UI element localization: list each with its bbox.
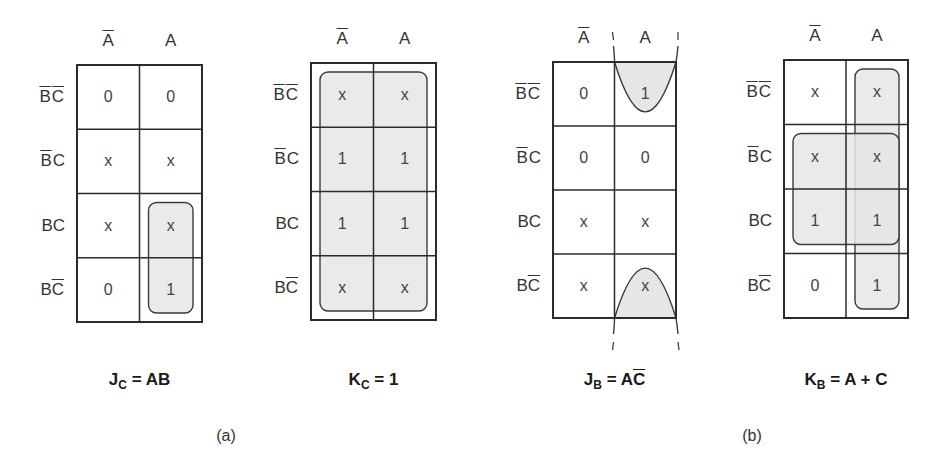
row-header-literal: B (40, 280, 51, 299)
equation-lhs: K (805, 370, 817, 389)
kmap-cell-value: x (338, 279, 346, 297)
kmap-cell-value: x (104, 217, 112, 235)
equation-lhs: K (349, 370, 361, 389)
row-header-literal: B (516, 276, 527, 295)
kmap-cell-value: x (167, 152, 175, 170)
row-header: BC (39, 87, 65, 107)
kmap-jc-equation: JC = AB (109, 370, 170, 392)
kmap-cell-value: x (580, 277, 588, 295)
kmap-cell-value: 0 (811, 277, 820, 295)
karnaugh-map-figure: AABCBCBCBC00xxxx01JC = ABAABCBCBCBCxx111… (0, 0, 933, 464)
row-header-literal: B (275, 214, 286, 233)
row-header: BC (273, 85, 299, 105)
kmap-cell-value: x (641, 213, 649, 231)
kmap-jb-equation: JB = AC (584, 370, 645, 392)
row-header-literal: C (528, 276, 540, 295)
row-header: BC (274, 149, 299, 169)
kmap-cell-value: 1 (338, 150, 347, 168)
row-header-literal: C (529, 148, 541, 167)
equals-sign: = (370, 370, 389, 389)
row-header: BC (40, 151, 65, 171)
row-header: BC (748, 211, 772, 231)
col-header-a-bar: A (337, 29, 348, 49)
row-header-literal: B (747, 147, 758, 166)
row-header-literal: B (274, 149, 285, 168)
row-header-literal: C (760, 147, 772, 166)
kmap-graphics (0, 0, 933, 464)
panel-label-b: (b) (742, 427, 762, 445)
equation-rhs-term: A + C (844, 370, 887, 389)
row-header-literal: C (759, 276, 771, 295)
kmap-cell-value: 1 (873, 277, 882, 295)
row-header: BC (746, 82, 772, 102)
row-header-literal: C (529, 212, 541, 231)
kmap-cell-value: 0 (579, 85, 588, 103)
row-header: BC (275, 214, 299, 234)
wrap-dash-mark (613, 342, 614, 350)
kmap-cell-value: 1 (400, 150, 409, 168)
col-header-a: A (640, 28, 651, 48)
row-header-literal: B (41, 216, 52, 235)
row-header: BC (40, 280, 65, 300)
kmap-cell-value: x (580, 213, 588, 231)
equation-rhs-term: AB (146, 370, 171, 389)
row-header-literal: C (286, 85, 298, 104)
equation-subscript: B (593, 378, 602, 392)
panel-label-a: (a) (216, 427, 236, 445)
row-header-literal: C (760, 211, 772, 230)
row-header-literal: C (52, 87, 64, 106)
kmap-cell-value: 1 (641, 85, 650, 103)
row-header: BC (516, 148, 541, 168)
row-header-literal: C (528, 84, 540, 103)
row-header: BC (747, 276, 772, 296)
row-header: BC (41, 216, 65, 236)
wrap-dash-mark (613, 32, 614, 40)
row-header-literal: B (274, 278, 285, 297)
row-header-literal: B (273, 85, 284, 104)
row-header-literal: C (759, 82, 771, 101)
kmap-cell-value: x (811, 148, 819, 166)
kmap-cell-value: 1 (873, 212, 882, 230)
kmap-cell-value: x (873, 83, 881, 101)
kmap-cell-value: 1 (400, 215, 409, 233)
equation-rhs-term: 1 (389, 370, 398, 389)
col-header-a: A (165, 31, 176, 51)
col-header-a-bar: A (809, 26, 820, 46)
row-header: BC (516, 276, 541, 296)
kmap-cell-value: x (401, 279, 409, 297)
kmap-cell-value: 0 (641, 149, 650, 167)
row-header-literal: B (516, 148, 527, 167)
row-header-literal: C (52, 280, 64, 299)
kmap-cell-value: x (873, 148, 881, 166)
equation-subscript: C (118, 378, 127, 392)
kmap-kb-equation: KB = A + C (805, 370, 888, 392)
kmap-cell-value: x (641, 277, 649, 295)
kmap-cell-value: 1 (166, 281, 175, 299)
kmap-cell-value: x (167, 217, 175, 235)
kmap-cell-value: 0 (579, 149, 588, 167)
row-header-literal: B (746, 82, 757, 101)
row-header-literal: B (517, 212, 528, 231)
wrap-dash-mark (678, 342, 679, 350)
kmap-kc-equation: KC = 1 (349, 370, 399, 392)
equals-sign: = (127, 370, 146, 389)
col-header-a: A (871, 26, 882, 46)
row-header-literal: B (39, 87, 50, 106)
kmap-cell-value: x (401, 86, 409, 104)
row-header-literal: B (748, 211, 759, 230)
row-header-literal: B (515, 84, 526, 103)
equals-sign: = (825, 370, 844, 389)
row-header-literal: C (53, 151, 65, 170)
kmap-cell-value: x (811, 83, 819, 101)
kmap-cell-value: 1 (811, 212, 820, 230)
row-header-literal: C (286, 278, 298, 297)
equation-subscript: B (817, 378, 826, 392)
kmap-cell-value: x (338, 86, 346, 104)
row-header: BC (517, 212, 541, 232)
row-header-literal: C (53, 216, 65, 235)
equation-subscript: C (361, 378, 370, 392)
row-header-literal: C (287, 214, 299, 233)
kmap-cell-value: 1 (338, 215, 347, 233)
equals-sign: = (602, 370, 621, 389)
row-header: BC (515, 84, 541, 104)
